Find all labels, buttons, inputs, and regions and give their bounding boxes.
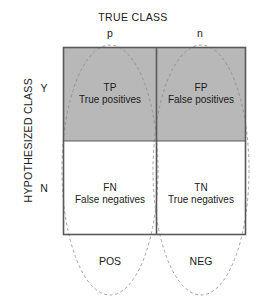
row-header-n: N <box>33 183 55 194</box>
footer-label-pos: POS <box>64 255 156 267</box>
confusion-matrix-figure: TRUE CLASS p n HYPOTHESIZED CLASS Y N TP… <box>0 0 266 302</box>
cell-tp-abbr: TP <box>64 82 156 94</box>
cell-tn-name: True negatives <box>156 194 246 206</box>
cell-fp-abbr: FP <box>156 82 246 94</box>
y-axis-label: HYPOTHESIZED CLASS <box>23 60 34 220</box>
cell-tn: TN True negatives <box>156 182 246 206</box>
cell-fp: FP False positives <box>156 82 246 106</box>
cell-fn: FN False negatives <box>64 182 156 206</box>
cell-fp-name: False positives <box>156 94 246 106</box>
row-header-y: Y <box>33 83 55 94</box>
cell-tn-abbr: TN <box>156 182 246 194</box>
cell-fn-abbr: FN <box>64 182 156 194</box>
cell-fn-name: False negatives <box>64 194 156 206</box>
cell-tp-name: True positives <box>64 94 156 106</box>
chart-title: TRUE CLASS <box>0 12 266 23</box>
footer-label-neg: NEG <box>156 255 246 267</box>
matrix-border <box>64 48 246 235</box>
cell-tp: TP True positives <box>64 82 156 106</box>
column-header-n: n <box>154 28 246 39</box>
column-header-p: p <box>64 28 156 39</box>
